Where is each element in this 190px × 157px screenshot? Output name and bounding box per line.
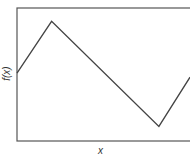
chart-canvas <box>0 0 190 157</box>
plot-frame <box>17 8 190 141</box>
function-line <box>17 21 190 126</box>
y-axis-label: f(x) <box>1 62 12 86</box>
x-axis-label: x <box>98 145 103 156</box>
